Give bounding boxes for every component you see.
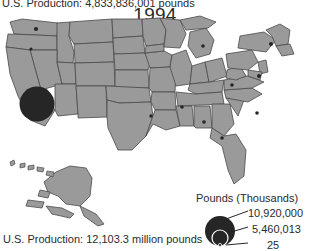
legend-value-1: 5,460,013 <box>252 223 301 235</box>
symbol-california <box>20 87 55 122</box>
symbol-north-carolina <box>255 111 259 115</box>
map-figure: U.S. Production: 4,833,836,001 pounds 19… <box>0 0 310 251</box>
symbol-tennessee <box>202 120 206 124</box>
symbol-oregon <box>29 47 32 50</box>
bottom-production-label: U.S. Production: 12,103.3 million pounds <box>3 233 202 245</box>
symbol-new-york <box>269 42 273 46</box>
symbol-pennsylvania <box>257 74 261 78</box>
legend-value-0: 10,920,000 <box>248 207 303 219</box>
legend-title: Pounds (Thousands) <box>196 192 298 204</box>
legend-value-2: 25 <box>267 239 279 251</box>
legend: Pounds (Thousands) 10,920,000 5,460,013 … <box>196 192 310 251</box>
symbol-michigan <box>201 44 205 48</box>
symbol-ohio <box>230 83 234 87</box>
alaska-inset <box>26 166 104 226</box>
symbol-missouri <box>180 105 184 109</box>
nested-proportional-circles-icon <box>202 207 248 251</box>
symbol-georgia <box>220 136 224 140</box>
symbol-washington <box>34 27 38 31</box>
hawaii-inset <box>10 160 54 177</box>
symbol-arkansas <box>149 114 152 117</box>
